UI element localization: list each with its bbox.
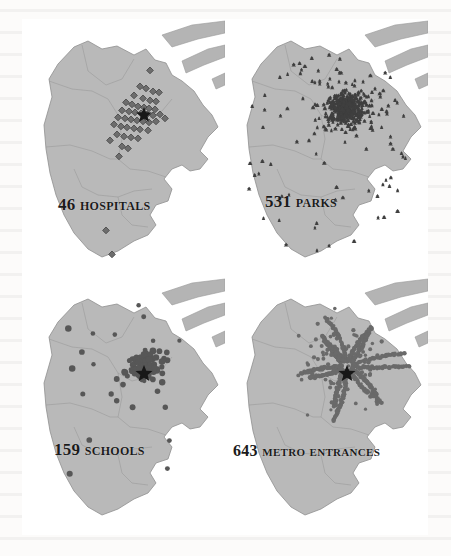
panel-hospitals[interactable]: 46 Hospitals <box>22 19 225 277</box>
caption-parks: 531 Parks <box>265 192 337 212</box>
caption-hospitals: 46 Hospitals <box>58 195 150 215</box>
panel-parks[interactable]: 531 Parks <box>225 19 428 277</box>
map-parks <box>225 19 428 277</box>
metro-label: Metro Entrances <box>262 442 380 459</box>
map-metro <box>225 277 428 535</box>
schools-count: 159 <box>54 440 80 459</box>
figure-plate: 46 Hospitals <box>0 0 451 556</box>
map-schools <box>22 277 225 535</box>
parks-label: Parks <box>296 192 337 211</box>
map-hospitals <box>22 19 225 277</box>
hospitals-count: 46 <box>58 195 76 214</box>
panel-metro[interactable]: 643 Metro Entrances <box>225 277 428 535</box>
panel-schools[interactable]: 159 Schools <box>22 277 225 535</box>
metro-count: 643 <box>233 442 258 459</box>
caption-metro: 643 Metro Entrances <box>233 442 380 460</box>
hospitals-label: Hospitals <box>80 195 151 214</box>
caption-schools: 159 Schools <box>54 440 145 460</box>
schools-label: Schools <box>85 440 145 459</box>
parks-count: 531 <box>265 192 291 211</box>
panel-grid: 46 Hospitals <box>22 19 428 535</box>
